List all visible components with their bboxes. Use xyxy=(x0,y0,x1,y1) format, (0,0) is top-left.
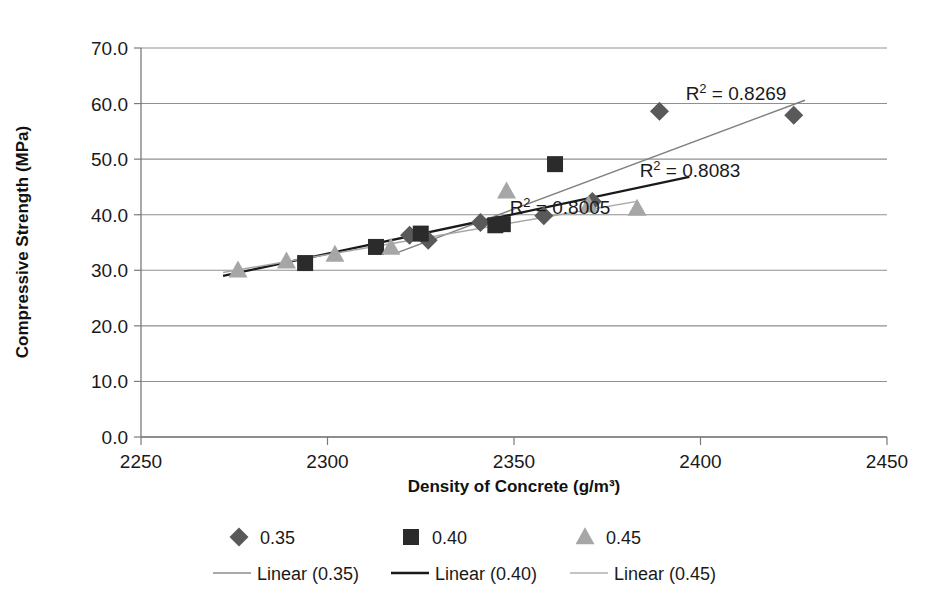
y-tick-label: 30.0 xyxy=(91,260,128,281)
legend-label-0-35: 0.35 xyxy=(260,528,295,548)
legend-marker-0-40 xyxy=(403,529,419,545)
y-tick-label: 0.0 xyxy=(102,427,128,448)
y-tick-label: 50.0 xyxy=(91,149,128,170)
y-tick-label: 10.0 xyxy=(91,371,128,392)
y-tick-label: 70.0 xyxy=(91,38,128,59)
legend-label-0-45: 0.45 xyxy=(606,528,641,548)
data-point-0-40 xyxy=(495,216,511,232)
chart-background xyxy=(0,0,931,601)
legend-line-label-045: Linear (0.45) xyxy=(614,564,716,584)
x-tick-label: 2450 xyxy=(866,451,908,472)
x-tick-label: 2250 xyxy=(120,451,162,472)
x-axis-title: Density of Concrete (g/m³) xyxy=(408,477,621,496)
x-tick-label: 2350 xyxy=(493,451,535,472)
chart-container: 0.010.020.030.040.050.060.070.0 22502300… xyxy=(0,0,931,601)
data-point-0-40 xyxy=(368,239,384,255)
compressive-strength-vs-density-scatter-chart: 0.010.020.030.040.050.060.070.0 22502300… xyxy=(0,0,931,601)
y-tick-label: 20.0 xyxy=(91,316,128,337)
y-tick-label: 40.0 xyxy=(91,205,128,226)
x-tick-label: 2400 xyxy=(679,451,721,472)
legend-label-0-40: 0.40 xyxy=(432,528,467,548)
data-point-0-40 xyxy=(547,156,563,172)
data-point-0-40 xyxy=(413,226,429,242)
y-axis-title: Compressive Strength (MPa) xyxy=(13,126,32,358)
data-point-0-40 xyxy=(297,255,313,271)
legend-line-label-035: Linear (0.35) xyxy=(257,564,359,584)
x-tick-label: 2300 xyxy=(306,451,348,472)
y-tick-label: 60.0 xyxy=(91,94,128,115)
legend-line-label-040: Linear (0.40) xyxy=(435,564,537,584)
